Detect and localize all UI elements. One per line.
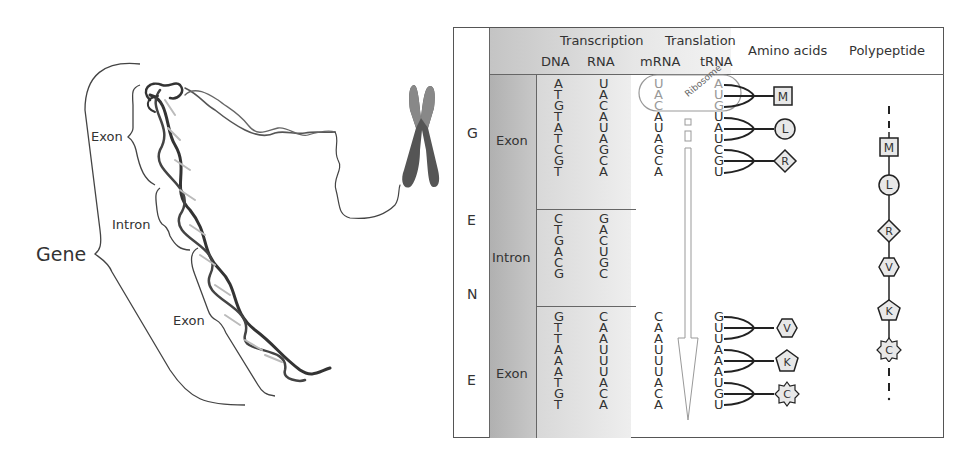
svg-text:R: R bbox=[885, 225, 893, 238]
dna-helix-illustration bbox=[0, 0, 450, 461]
svg-text:M: M bbox=[778, 90, 788, 104]
dna-double-helix bbox=[146, 83, 400, 380]
trna-arms-exon-1 bbox=[724, 85, 774, 173]
gene-illustration: Gene Exon Intron Exon bbox=[0, 0, 450, 461]
trna-arms-exon-2 bbox=[724, 317, 774, 405]
translation-arrow bbox=[678, 148, 698, 420]
ribosome-label: Ribosome bbox=[683, 62, 724, 99]
svg-text:V: V bbox=[885, 261, 893, 274]
amino-acid-m: M bbox=[774, 87, 792, 105]
svg-text:K: K bbox=[885, 305, 893, 318]
svg-text:K: K bbox=[783, 356, 791, 369]
gene-label: Gene bbox=[36, 243, 86, 265]
polypeptide-chain: M L R V K C bbox=[877, 106, 901, 412]
amino-acid-r: R bbox=[774, 150, 796, 172]
svg-text:C: C bbox=[783, 388, 791, 401]
exon-label-2: Exon bbox=[173, 313, 205, 328]
exon-label-1: Exon bbox=[91, 129, 123, 144]
svg-text:M: M bbox=[884, 141, 894, 155]
svg-text:V: V bbox=[783, 322, 791, 335]
translation-graphics: Ribosome M L R bbox=[454, 28, 945, 439]
svg-text:R: R bbox=[781, 155, 789, 168]
svg-text:L: L bbox=[886, 178, 893, 192]
chromosome-icon bbox=[402, 85, 439, 188]
amino-acid-l: L bbox=[775, 119, 795, 139]
intron-label: Intron bbox=[112, 217, 150, 232]
amino-acid-k: K bbox=[776, 350, 798, 371]
svg-text:C: C bbox=[885, 344, 893, 357]
amino-acid-c: C bbox=[775, 382, 799, 406]
amino-acid-v: V bbox=[777, 319, 797, 337]
svg-text:L: L bbox=[782, 122, 789, 136]
gene-expression-table: Transcription Translation DNA RNA mRNA t… bbox=[453, 27, 944, 438]
